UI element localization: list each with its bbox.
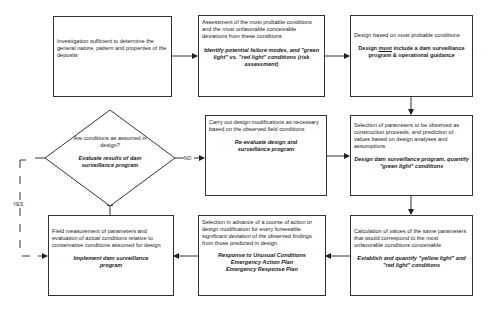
edge-label-yes: YES <box>13 201 23 207</box>
node-design-text: Design based on most probable conditions <box>354 32 469 39</box>
node-calculation: Calculation of values of the same parame… <box>350 215 473 296</box>
node-response-emphasis: Response to Unusual Conditions Emergency… <box>202 252 322 273</box>
node-parameters-text: Selection of parameters to be observed a… <box>354 122 469 150</box>
node-design-emphasis-underlined: must <box>379 45 392 51</box>
node-parameters: Selection of parameters to be observed a… <box>350 115 473 196</box>
node-modifications-text: Carry out design modifications as necess… <box>209 119 323 133</box>
node-design-emphasis: Design must include a dam surveillance p… <box>354 45 469 59</box>
node-response-emphasis-line: Emergency Action Plan <box>202 259 322 266</box>
node-assessment-text: Assessment of the most probable conditio… <box>202 19 321 40</box>
node-calculation-emphasis: Establish and quantify "yellow light" an… <box>354 255 469 269</box>
node-response-text: Selection in advance of a course of acti… <box>202 219 322 247</box>
node-field-measurement-emphasis: Implement dam surveillance program <box>52 255 170 269</box>
node-assessment-emphasis: Identify potential failure modes, and "g… <box>202 47 321 68</box>
node-design-emphasis-pre: Design <box>358 45 378 51</box>
node-response: Selection in advance of a course of acti… <box>198 215 326 296</box>
node-decision: Are conditions as assumed in design? Eva… <box>70 135 150 169</box>
node-assessment: Assessment of the most probable conditio… <box>198 15 325 97</box>
node-decision-emphasis: Evaluate results of dam surveillance pro… <box>70 155 150 169</box>
node-field-measurement: Field measurement of parameters and eval… <box>48 215 174 296</box>
node-response-emphasis-line: Response to Unusual Conditions <box>202 252 322 259</box>
node-field-measurement-text: Field measurement of parameters and eval… <box>52 228 170 249</box>
node-parameters-emphasis: Design dam surveillance program, quantif… <box>354 156 469 170</box>
node-calculation-text: Calculation of values of the same parame… <box>354 228 469 249</box>
edge-label-no: NO <box>184 155 192 161</box>
node-response-emphasis-line: Emergency Response Plan <box>202 266 322 273</box>
node-investigation-text: Investigation sufficient to determine th… <box>57 38 168 59</box>
node-decision-question: Are conditions as assumed in design? <box>70 135 150 149</box>
node-modifications: Carry out design modifications as necess… <box>205 115 327 196</box>
node-modifications-emphasis: Re-evaluate design and surveillance prog… <box>209 139 323 153</box>
node-design: Design based on most probable conditions… <box>350 15 473 97</box>
node-investigation: Investigation sufficient to determine th… <box>53 16 172 97</box>
